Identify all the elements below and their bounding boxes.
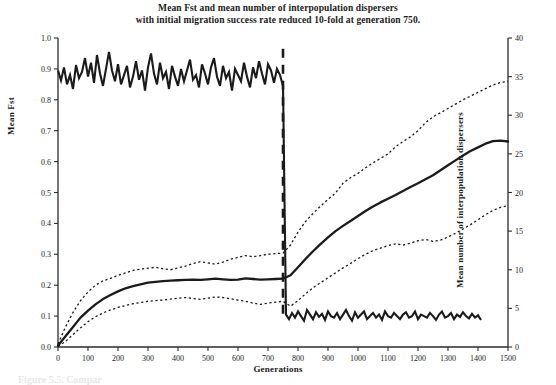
x-tick-label: 500 <box>202 354 214 363</box>
y-tick-label-right: 0 <box>515 343 519 352</box>
y-tick-label-left: 0.4 <box>41 219 51 228</box>
x-tick-label: 100 <box>82 354 94 363</box>
x-tick-label: 800 <box>292 354 304 363</box>
y-tick-label-right: 5 <box>515 304 519 313</box>
x-tick-label: 900 <box>322 354 334 363</box>
y-tick-label-left: 0.2 <box>41 281 51 290</box>
y-axis-label-left: Mean Fst <box>6 66 16 166</box>
x-tick-label: 1400 <box>470 354 486 363</box>
x-tick-label: 1000 <box>350 354 366 363</box>
y-tick-label-right: 35 <box>515 73 523 82</box>
x-tick-label: 1300 <box>440 354 456 363</box>
series-line-mean-fst <box>283 141 508 279</box>
y-tick-label-left: 0.5 <box>41 189 51 198</box>
y-tick-label-left: 1.0 <box>41 34 51 43</box>
x-tick-label: 1100 <box>380 354 396 363</box>
y-tick-label-left: 0.9 <box>41 65 51 74</box>
x-tick-label: 400 <box>172 354 184 363</box>
x-tick-label: 700 <box>262 354 274 363</box>
x-tick-label: 0 <box>56 354 60 363</box>
x-tick-label: 300 <box>142 354 154 363</box>
x-axis-label: Generations <box>0 364 556 374</box>
y-tick-label-right: 30 <box>515 111 523 120</box>
y-tick-label-left: 0.0 <box>41 343 51 352</box>
y-tick-label-left: 0.3 <box>41 250 51 259</box>
figure-caption-fragment: Figure 5.5. Compar <box>18 374 102 385</box>
y-tick-label-left: 0.1 <box>41 312 51 321</box>
y-tick-label-left: 0.8 <box>41 96 51 105</box>
y-tick-label-right: 10 <box>515 266 523 275</box>
y-tick-label-left: 0.7 <box>41 127 51 136</box>
y-tick-label-left: 0.6 <box>41 158 51 167</box>
x-tick-label: 1500 <box>500 354 516 363</box>
y-tick-label-right: 25 <box>515 150 523 159</box>
y-tick-label-right: 15 <box>515 227 523 236</box>
x-tick-label: 1200 <box>410 354 426 363</box>
y-tick-label-right: 40 <box>515 34 523 43</box>
y-tick-label-right: 20 <box>515 189 523 198</box>
series-line-dispersers <box>58 52 283 91</box>
x-tick-label: 200 <box>112 354 124 363</box>
y-axis-label-right: Mean number of interpopulation disperser… <box>455 100 465 300</box>
series-line-mean-fst <box>58 278 283 345</box>
x-tick-label: 600 <box>232 354 244 363</box>
